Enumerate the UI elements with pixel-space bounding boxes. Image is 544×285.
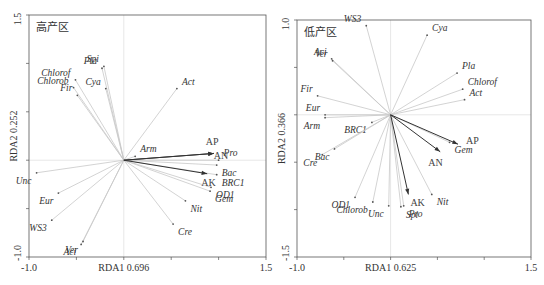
species-label: Unc — [368, 209, 385, 219]
environment-label: AN — [428, 157, 442, 168]
species-label: Chlorob — [336, 205, 368, 215]
x-axis-label: RDA1 0.696 — [98, 262, 149, 273]
species-vector — [124, 160, 173, 224]
species-label: WS3 — [29, 223, 47, 233]
y-tick-label-max: 1.0 — [280, 18, 291, 31]
species-label: Pla — [461, 61, 475, 71]
species-vector — [391, 115, 432, 195]
species-vector — [322, 115, 390, 155]
plot-frame — [297, 20, 531, 257]
species-point — [403, 205, 405, 207]
species-label: Cre — [178, 227, 192, 237]
species-point — [431, 194, 433, 196]
species-vector — [391, 115, 401, 207]
species-label: Cya — [85, 77, 101, 87]
species-vector — [106, 89, 124, 161]
species-point — [456, 72, 458, 74]
species-label: BRC1 — [222, 178, 245, 188]
species-point — [216, 174, 218, 176]
environment-label: AK — [410, 197, 425, 208]
species-point — [57, 192, 59, 194]
x-tick-label-max: 1.5 — [260, 262, 273, 273]
y-tick-label-min: -1.5 — [280, 245, 291, 261]
species-label: Cya — [432, 23, 448, 33]
species-vector — [366, 26, 390, 115]
species-point — [103, 65, 105, 67]
environment-vector — [391, 115, 409, 195]
species-point — [82, 241, 84, 243]
species-point — [321, 154, 323, 156]
species-point — [449, 141, 451, 143]
arrow-head-icon — [452, 140, 458, 144]
species-vector — [391, 115, 404, 206]
species-vector — [318, 96, 391, 115]
species-point — [372, 201, 374, 203]
species-label: Nit — [189, 204, 202, 214]
environment-vector — [124, 153, 214, 160]
species-label: Ver — [65, 245, 78, 255]
panel-high-yield: -1.01.51.5-1.0RDA1 0.696RDA2 0.252高产区Pla… — [8, 13, 272, 273]
species-label: Eur — [305, 103, 321, 113]
x-tick-label-min: -1.0 — [21, 262, 37, 273]
species-vector — [124, 160, 186, 201]
species-vector — [391, 35, 428, 115]
x-tick-label-min: -1.0 — [289, 262, 305, 273]
species-point — [134, 155, 136, 157]
species-label: Fir — [299, 84, 312, 94]
rda-biplots: -1.01.51.5-1.0RDA1 0.696RDA2 0.252高产区Pla… — [0, 0, 544, 285]
species-point — [331, 58, 333, 60]
species-point — [80, 244, 82, 246]
y-axis-label: RDA2 0.252 — [8, 110, 19, 161]
species-point — [462, 88, 464, 90]
environment-label: AN — [214, 150, 228, 161]
species-point — [209, 190, 211, 192]
species-point — [371, 121, 373, 123]
species-label: Gem — [455, 145, 473, 155]
y-tick-label-max: 1.5 — [12, 13, 23, 26]
species-point — [75, 79, 77, 81]
species-label: Eur — [38, 196, 54, 206]
species-point — [216, 164, 218, 166]
environment-label: AP — [206, 136, 219, 147]
environment-label: AK — [201, 177, 216, 188]
panel-title: 高产区 — [36, 20, 69, 34]
species-point — [176, 88, 178, 90]
species-label: Bac — [222, 168, 238, 178]
species-point — [388, 205, 390, 207]
species-point — [324, 117, 326, 119]
y-axis-label: RDA2 0.366 — [276, 113, 287, 164]
environment-label: AP — [466, 135, 479, 146]
species-point — [464, 99, 466, 101]
x-tick-label-max: 1.5 — [525, 262, 538, 273]
species-point — [400, 206, 402, 208]
species-point — [76, 94, 78, 96]
species-label: Gem — [215, 194, 233, 204]
species-point — [317, 95, 319, 97]
panel-title: 低产区 — [304, 25, 337, 39]
species-point — [73, 87, 75, 89]
species-label: Spi — [406, 210, 419, 220]
species-point — [426, 34, 428, 36]
species-point — [354, 196, 356, 198]
species-point — [101, 67, 103, 69]
species-label: Spi — [87, 54, 100, 64]
species-point — [185, 200, 187, 202]
species-label: Act — [469, 88, 483, 98]
y-tick-label-min: -1.0 — [12, 245, 23, 261]
species-label: Arm — [139, 144, 157, 154]
species-label: Unc — [16, 176, 33, 186]
species-label: Cre — [303, 158, 317, 168]
species-label: Ver — [315, 49, 328, 59]
species-label: Arm — [303, 121, 321, 131]
plot-frame — [29, 15, 266, 257]
species-point — [36, 172, 38, 174]
species-label: Act — [181, 77, 195, 87]
species-point — [365, 25, 367, 27]
species-label: Fir — [59, 83, 72, 93]
species-vector — [373, 115, 391, 202]
species-point — [332, 60, 334, 62]
species-point — [324, 114, 326, 116]
species-vector — [83, 160, 124, 241]
species-vector — [333, 61, 391, 115]
species-vector — [325, 115, 391, 118]
